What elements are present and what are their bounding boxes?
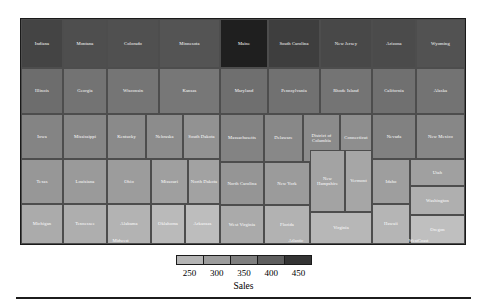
- treemap-cell[interactable]: California: [372, 68, 416, 114]
- treemap-cell-label: Wyoming: [418, 41, 463, 46]
- treemap-cell[interactable]: Rhode Island: [320, 68, 372, 114]
- treemap-cell[interactable]: Wyoming: [416, 19, 465, 68]
- treemap-cell-label: Florida: [266, 222, 308, 227]
- treemap-cell-label: Delaware: [266, 135, 301, 140]
- treemap-cell[interactable]: Maryland: [220, 68, 268, 114]
- treemap-cell-label: Louisiana: [65, 179, 105, 184]
- legend-tick-label: 300: [210, 267, 224, 279]
- treemap-cell[interactable]: Mississippi: [63, 114, 107, 159]
- treemap-cell-label: Maryland: [222, 88, 266, 93]
- treemap-cell[interactable]: New Hampshire: [310, 150, 345, 212]
- treemap-cell[interactable]: Hawaii: [372, 204, 410, 244]
- color-legend-bar: [176, 255, 312, 265]
- legend-tick-label: 250: [183, 267, 197, 279]
- treemap-cell[interactable]: Delaware: [264, 114, 303, 162]
- treemap-cell[interactable]: Oregon: [410, 215, 465, 244]
- treemap-cell[interactable]: New York: [264, 162, 310, 205]
- legend-title: Sales: [0, 281, 487, 291]
- treemap-cell-label: West Virginia: [222, 222, 262, 227]
- treemap-cell-label: Colorado: [109, 41, 157, 46]
- legend-tick-label: 400: [264, 267, 278, 279]
- treemap-cell[interactable]: Wisconsin: [107, 68, 159, 114]
- treemap-cell[interactable]: Alaska: [416, 68, 465, 114]
- treemap-cell-label: Arkansas: [187, 221, 218, 226]
- treemap-cell[interactable]: Washington: [410, 186, 465, 215]
- treemap-cell-label: South Dakota: [185, 134, 218, 139]
- treemap-cell[interactable]: Kentucky: [107, 114, 146, 159]
- treemap-cell[interactable]: Ohio: [107, 159, 151, 204]
- legend-tick-label: 450: [292, 267, 306, 279]
- treemap-cell-label: Washington: [412, 198, 463, 203]
- treemap-cell[interactable]: South Dakota: [183, 114, 220, 159]
- treemap-cell[interactable]: Utah: [410, 159, 465, 186]
- treemap-cell[interactable]: Nevada: [372, 114, 416, 159]
- treemap-cell-label: Georgia: [65, 88, 105, 93]
- treemap-cell-label: Indiana: [23, 41, 61, 46]
- treemap-cell-label: Texas: [23, 179, 61, 184]
- treemap-cell-label: Virginia: [312, 225, 370, 230]
- legend-swatch: [258, 256, 285, 264]
- treemap-cell-label: Utah: [412, 170, 463, 175]
- treemap-cell[interactable]: Texas: [21, 159, 63, 204]
- treemap-cell-label: Iowa: [23, 134, 61, 139]
- treemap-cell-label: North Carolina: [222, 181, 262, 186]
- treemap-cell-label: Pennsylvania: [270, 88, 318, 93]
- treemap-cell-label: New Hampshire: [312, 176, 343, 187]
- treemap-cell[interactable]: Indiana: [21, 19, 63, 68]
- treemap-cell-label: Oklahoma: [153, 221, 183, 226]
- treemap-cell[interactable]: New Jersey: [320, 19, 372, 68]
- treemap-cell[interactable]: Georgia: [63, 68, 107, 114]
- treemap-cell-label: Alaska: [418, 88, 463, 93]
- treemap-cell-label: California: [374, 88, 414, 93]
- treemap-cell-label: New Mexico: [418, 134, 463, 139]
- treemap-cell-label: Idaho: [374, 179, 408, 184]
- treemap-cell[interactable]: Illinois: [21, 68, 63, 114]
- treemap-cell[interactable]: South Carolina: [268, 19, 320, 68]
- treemap-cell[interactable]: Idaho: [372, 159, 410, 204]
- treemap-cell-label: Michigan: [23, 221, 61, 226]
- treemap-cell[interactable]: Massachusetts: [220, 114, 264, 162]
- treemap-cell[interactable]: Minnesota: [159, 19, 220, 68]
- treemap-cell[interactable]: Maine: [220, 19, 268, 68]
- treemap-cell-label: Montana: [65, 41, 105, 46]
- treemap-cell-label: Illinois: [23, 88, 61, 93]
- treemap-group-midwest: IndianaMontanaColoradoMinnesotaIllinoisG…: [21, 19, 220, 244]
- treemap-cell-label: Kansas: [161, 88, 218, 93]
- treemap-cell[interactable]: Pennsylvania: [268, 68, 320, 114]
- treemap-cell[interactable]: Virginia: [310, 212, 372, 244]
- treemap-cell[interactable]: North Dakota: [188, 159, 220, 204]
- treemap-cell-label: District of Columbia: [305, 133, 338, 144]
- treemap-cell[interactable]: Colorado: [107, 19, 159, 68]
- treemap-cell[interactable]: Tennessee: [63, 204, 107, 244]
- treemap-cell[interactable]: Louisiana: [63, 159, 107, 204]
- treemap-cell[interactable]: West Virginia: [220, 205, 264, 244]
- treemap-cell[interactable]: Nebraska: [146, 114, 183, 159]
- treemap-cell[interactable]: Arkansas: [185, 204, 220, 244]
- treemap-cell-label: Massachusetts: [222, 135, 262, 140]
- treemap-cell[interactable]: North Carolina: [220, 162, 264, 205]
- treemap-cell-label: Ohio: [109, 179, 149, 184]
- treemap-cell[interactable]: Kansas: [159, 68, 220, 114]
- treemap-cell[interactable]: Vermont: [345, 150, 372, 212]
- treemap-cell[interactable]: Oklahoma: [151, 204, 185, 244]
- treemap-cell[interactable]: Arizona: [372, 19, 416, 68]
- treemap-cell[interactable]: Michigan: [21, 204, 63, 244]
- treemap-cell-label: Hawaii: [374, 221, 408, 226]
- treemap-cell-label: Mississippi: [65, 134, 105, 139]
- legend-swatch: [231, 256, 258, 264]
- treemap-cell[interactable]: Alabama: [107, 204, 151, 244]
- treemap-cell-label: Wisconsin: [109, 88, 157, 93]
- treemap-cell-label: Arizona: [374, 41, 414, 46]
- treemap-cell[interactable]: Missouri: [151, 159, 188, 204]
- treemap-cell[interactable]: New Mexico: [416, 114, 465, 159]
- treemap-cell-label: Nevada: [374, 134, 414, 139]
- treemap-cell-label: Rhode Island: [322, 88, 370, 93]
- treemap-cell[interactable]: Montana: [63, 19, 107, 68]
- legend-tick-label: 350: [237, 267, 251, 279]
- treemap-cell[interactable]: Florida: [264, 205, 310, 244]
- treemap-cell[interactable]: Iowa: [21, 114, 63, 159]
- treemap-cell-label: Kentucky: [109, 134, 144, 139]
- treemap-cell-label: New York: [266, 181, 308, 186]
- legend-swatch: [177, 256, 204, 264]
- color-legend-ticks: 250300350400450: [166, 267, 322, 279]
